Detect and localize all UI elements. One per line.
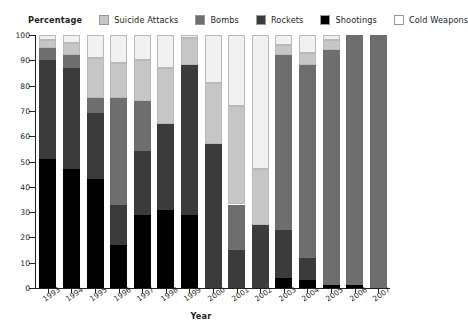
- legend-item-cold-weapons: Cold Weapons: [394, 15, 468, 25]
- bar-segment-suicide-attacks[interactable]: [205, 35, 222, 83]
- bar-2004[interactable]: [299, 35, 316, 288]
- bar-2005[interactable]: [323, 35, 340, 288]
- bar-1994[interactable]: [63, 35, 80, 288]
- bar-segment-bombs[interactable]: [275, 45, 292, 55]
- bar-segment-bombs[interactable]: [63, 43, 80, 56]
- bar-segment-cold-weapons[interactable]: [181, 215, 198, 288]
- y-axis-tick-label: 90: [2, 56, 30, 65]
- y-axis-tick-label: 20: [2, 233, 30, 242]
- bar-segment-rockets[interactable]: [134, 101, 151, 152]
- bar-1998[interactable]: [157, 35, 174, 288]
- bar-2001[interactable]: [228, 35, 245, 288]
- y-axis-tick-label: 10: [2, 259, 30, 268]
- bar-segment-suicide-attacks[interactable]: [87, 35, 104, 58]
- bar-2007[interactable]: [370, 35, 387, 288]
- bar-segment-shootings[interactable]: [181, 65, 198, 214]
- bar-segment-shootings[interactable]: [39, 60, 56, 159]
- bar-segment-rockets[interactable]: [110, 98, 127, 204]
- bar-2006[interactable]: [346, 35, 363, 288]
- bar-segment-cold-weapons[interactable]: [134, 215, 151, 288]
- bar-segment-suicide-attacks[interactable]: [157, 35, 174, 68]
- bar-1993[interactable]: [39, 35, 56, 288]
- legend-label-cold-weapons: Cold Weapons: [409, 15, 468, 25]
- bar-1996[interactable]: [110, 35, 127, 288]
- bar-segment-suicide-attacks[interactable]: [110, 35, 127, 63]
- bar-segment-rockets[interactable]: [370, 35, 387, 288]
- bar-segment-cold-weapons[interactable]: [275, 278, 292, 288]
- bar-segment-cold-weapons[interactable]: [299, 280, 316, 288]
- bar-2000[interactable]: [205, 35, 222, 288]
- bar-segment-rockets[interactable]: [39, 48, 56, 61]
- bar-segment-cold-weapons[interactable]: [39, 159, 56, 288]
- bar-segment-cold-weapons[interactable]: [157, 210, 174, 288]
- bar-segment-bombs[interactable]: [299, 53, 316, 66]
- y-axis-tick-label: 40: [2, 183, 30, 192]
- bar-segment-cold-weapons[interactable]: [63, 169, 80, 288]
- bar-segment-bombs[interactable]: [323, 40, 340, 50]
- bar-segment-rockets[interactable]: [299, 65, 316, 257]
- bar-segment-suicide-attacks[interactable]: [275, 35, 292, 45]
- bar-segment-bombs[interactable]: [87, 58, 104, 98]
- y-axis-tick-label: 50: [2, 158, 30, 167]
- bar-1995[interactable]: [87, 35, 104, 288]
- bar-segment-suicide-attacks[interactable]: [181, 35, 198, 38]
- bar-segment-bombs[interactable]: [228, 106, 245, 205]
- bar-segment-bombs[interactable]: [205, 83, 222, 144]
- bar-segment-suicide-attacks[interactable]: [228, 35, 245, 106]
- bar-segment-shootings[interactable]: [275, 230, 292, 278]
- bar-segment-cold-weapons[interactable]: [87, 179, 104, 288]
- y-axis-tick-label: 80: [2, 82, 30, 91]
- bar-segment-shootings[interactable]: [110, 205, 127, 245]
- bar-segment-rockets[interactable]: [63, 55, 80, 68]
- bar-segment-bombs[interactable]: [157, 68, 174, 124]
- bar-segment-shootings[interactable]: [63, 68, 80, 169]
- bar-segment-shootings[interactable]: [228, 250, 245, 288]
- bar-segment-bombs[interactable]: [252, 169, 269, 225]
- bar-segment-rockets[interactable]: [346, 35, 363, 285]
- bar-segment-suicide-attacks[interactable]: [252, 35, 269, 169]
- bar-segment-shootings[interactable]: [252, 225, 269, 288]
- y-axis-tick-label: 60: [2, 132, 30, 141]
- bar-segment-rockets[interactable]: [323, 50, 340, 285]
- bar-segment-suicide-attacks[interactable]: [299, 35, 316, 53]
- bar-segment-shootings[interactable]: [134, 151, 151, 214]
- bar-segment-shootings[interactable]: [87, 113, 104, 179]
- bar-segment-bombs[interactable]: [181, 38, 198, 66]
- y-axis-tick-label: 0: [2, 284, 30, 293]
- bar-segment-bombs[interactable]: [39, 40, 56, 48]
- bar-segment-bombs[interactable]: [110, 63, 127, 98]
- bar-segment-suicide-attacks[interactable]: [63, 35, 80, 43]
- bar-2002[interactable]: [252, 35, 269, 288]
- bar-segment-cold-weapons[interactable]: [323, 285, 340, 288]
- bar-segment-rockets[interactable]: [87, 98, 104, 113]
- bar-segment-shootings[interactable]: [205, 144, 222, 288]
- y-axis-tick-label: 70: [2, 107, 30, 116]
- bar-segment-rockets[interactable]: [228, 205, 245, 251]
- bar-1999[interactable]: [181, 35, 198, 288]
- bar-segment-shootings[interactable]: [157, 124, 174, 210]
- bar-segment-shootings[interactable]: [299, 258, 316, 281]
- bar-1997[interactable]: [134, 35, 151, 288]
- y-axis-line: [35, 35, 36, 289]
- y-axis-tick-label: 100: [2, 31, 30, 40]
- bar-segment-bombs[interactable]: [134, 60, 151, 100]
- bar-segment-suicide-attacks[interactable]: [323, 35, 340, 40]
- x-axis-title: Year: [0, 311, 402, 321]
- bar-2003[interactable]: [275, 35, 292, 288]
- bar-segment-suicide-attacks[interactable]: [134, 35, 151, 60]
- bar-segment-cold-weapons[interactable]: [346, 285, 363, 288]
- bar-segment-suicide-attacks[interactable]: [39, 35, 56, 40]
- bar-segment-cold-weapons[interactable]: [110, 245, 127, 288]
- y-axis-tick-label: 30: [2, 208, 30, 217]
- bar-segment-rockets[interactable]: [275, 55, 292, 230]
